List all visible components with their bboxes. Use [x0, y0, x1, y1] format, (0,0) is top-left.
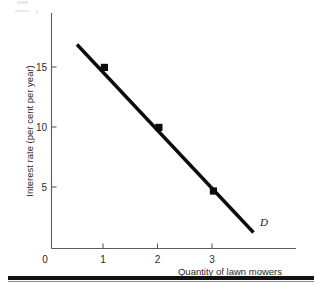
series-label-D: D [259, 216, 268, 228]
y-tick-label-10: 10 [36, 122, 48, 133]
axes-group [52, 13, 297, 249]
y-axis-tick-labels: 15 10 5 [36, 62, 48, 193]
series-D [77, 45, 254, 233]
y-tick-label-15: 15 [36, 62, 48, 73]
demand-curve-chart: 15 10 5 0 1 2 3 Interest rate (per cent … [0, 0, 322, 293]
data-point-marker [210, 187, 217, 194]
x-tick-label-3: 3 [209, 254, 215, 265]
bottom-divider-rule [8, 276, 314, 280]
x-axis-ticks [103, 244, 212, 249]
data-point-marker [101, 64, 108, 71]
y-tick-label-5: 5 [41, 182, 47, 193]
data-point-marker [155, 124, 162, 131]
x-tick-label-1: 1 [100, 254, 106, 265]
x-tick-label-0: 0 [42, 254, 48, 265]
y-axis-title: Interest rate (per cent per year) [24, 65, 35, 196]
scan-artifact-mark [15, 10, 29, 12]
bottom-divider-rule-shadow [8, 281, 314, 282]
scan-artifact-mark [17, 1, 28, 4]
x-tick-label-2: 2 [155, 254, 161, 265]
scan-artifact-mark [36, 11, 38, 14]
y-axis-ticks [52, 67, 57, 187]
x-axis-tick-labels: 0 1 2 3 [42, 254, 215, 265]
figure-container: 15 10 5 0 1 2 3 Interest rate (per cent … [0, 0, 322, 293]
demand-curve-line [77, 45, 254, 233]
